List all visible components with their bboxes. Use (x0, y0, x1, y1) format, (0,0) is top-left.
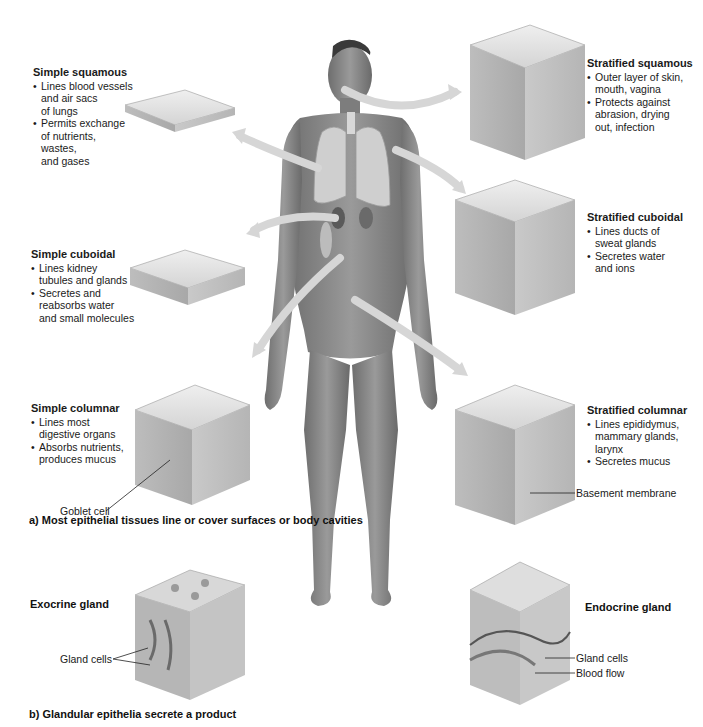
label-stratified-cuboidal: Stratified cuboidal Lines ducts of sweat… (587, 211, 703, 275)
tissue-bullet: Absorbs nutrients, produces mucus (31, 441, 136, 466)
label-simple-cuboidal: Simple cuboidal Lines kidney tubules and… (31, 248, 136, 324)
label-stratified-columnar: Stratified columnar Lines epididymus, ma… (587, 404, 703, 468)
label-simple-squamous: Simple squamous Lines blood vessels and … (33, 66, 133, 167)
stratified-columnar-block (455, 385, 575, 525)
exocrine-gland-block (113, 570, 245, 700)
stratified-cuboidal-block (455, 180, 575, 315)
tissue-bullet: Lines kidney tubules and glands (31, 262, 136, 287)
exocrine-gland-cells-callout: Gland cells (60, 653, 112, 665)
simple-columnar-block (135, 385, 250, 505)
tissue-bullet: Lines epididymus, mammary glands, larynx (587, 418, 703, 456)
endocrine-gland-cells-callout: Gland cells (576, 652, 628, 664)
tissue-title: Simple cuboidal (31, 248, 136, 261)
part-a-caption: a) Most epithelial tissues line or cover… (29, 514, 363, 526)
tissue-bullet: Lines blood vessels and air sacs of lung… (33, 80, 133, 118)
tissue-title: Stratified columnar (587, 404, 703, 417)
tissue-title: Stratified cuboidal (587, 211, 703, 224)
tissue-bullet: Permits exchange of nutrients, wastes, a… (33, 117, 133, 167)
label-stratified-squamous: Stratified squamous Outer layer of skin,… (587, 57, 703, 133)
simple-cuboidal-block (130, 250, 245, 305)
tissue-bullet: Lines ducts of sweat glands (587, 225, 703, 250)
tissue-bullet: Secretes mucus (587, 455, 703, 468)
simple-squamous-block (125, 90, 235, 132)
tissue-bullet: Secretes and reabsorbs water and small m… (31, 287, 136, 325)
endocrine-gland-block (470, 562, 575, 705)
tissue-bullet: Secretes water and ions (587, 250, 703, 275)
tissue-bullet: Protects against abrasion, drying out, i… (587, 96, 703, 134)
stratified-squamous-block (470, 25, 585, 160)
part-b-caption: b) Glandular epithelia secrete a product (29, 708, 236, 720)
blood-flow-callout: Blood flow (576, 667, 624, 679)
tissue-title: Stratified squamous (587, 57, 703, 70)
basement-membrane-callout: Basement membrane (576, 487, 676, 499)
endocrine-gland-title: Endocrine gland (585, 601, 671, 613)
tissue-bullet: Outer layer of skin, mouth, vagina (587, 71, 703, 96)
exocrine-gland-title: Exocrine gland (30, 598, 109, 610)
tissue-title: Simple squamous (33, 66, 133, 79)
label-simple-columnar: Simple columnar Lines most digestive org… (31, 402, 136, 466)
tissue-bullet: Lines most digestive organs (31, 416, 136, 441)
tissue-title: Simple columnar (31, 402, 136, 415)
